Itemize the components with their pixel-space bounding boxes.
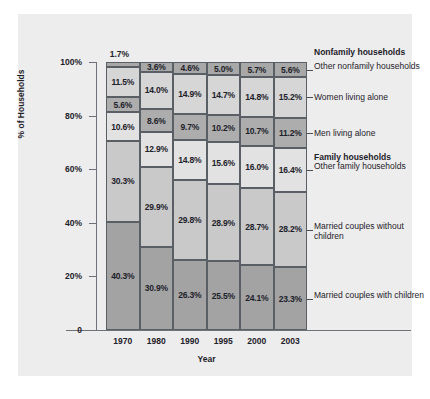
segment-value-label: 30.3% [111, 176, 134, 186]
segment-value-label: 23.3% [279, 294, 302, 304]
y-tick-mark [89, 223, 96, 224]
bar-segment[interactable]: 9.7% [173, 114, 207, 140]
bar-segment[interactable]: 14.9% [173, 74, 207, 114]
bar-segment[interactable]: 15.6% [207, 142, 241, 184]
plot-area: 11.5%5.6%10.6%30.3%40.3%3.6%14.0%8.6%12.… [106, 62, 307, 330]
bar-segment[interactable]: 14.0% [140, 72, 174, 110]
callout-leader-line [307, 70, 313, 71]
segment-value-label: 14.8% [178, 155, 201, 165]
bar-segment[interactable]: 16.4% [274, 148, 308, 192]
bar-segment[interactable]: 11.5% [106, 67, 140, 98]
bar-2003[interactable]: 5.6%15.2%11.2%16.4%28.2%23.3% [274, 62, 308, 330]
bar-segment[interactable]: 12.9% [140, 132, 174, 167]
segment-value-label: 26.3% [178, 290, 201, 300]
segment-value-label: 1.7% [110, 49, 129, 59]
segment-value-label: 25.5% [212, 291, 235, 301]
segment-value-label: 5.6% [113, 100, 132, 110]
segment-value-label: 24.1% [245, 293, 268, 303]
y-tick-label: 60% [46, 164, 82, 174]
bar-segment[interactable]: 14.7% [207, 75, 241, 114]
y-axis-line [96, 62, 97, 330]
bar-segment[interactable]: 10.6% [106, 112, 140, 140]
callout-leader-line [307, 170, 313, 171]
bar-segment[interactable]: 40.3% [106, 222, 140, 330]
bar-segment[interactable]: 15.2% [274, 77, 308, 118]
bar-segment[interactable]: 28.9% [207, 184, 241, 261]
chart-panel: % of Households 100%80%60%40%20%0 11.5%5… [18, 14, 412, 376]
bar-segment[interactable]: 5.7% [240, 62, 274, 77]
bar-2000[interactable]: 5.7%14.8%10.7%16.0%28.7%24.1% [240, 62, 274, 330]
bar-segment[interactable]: 5.6% [274, 62, 308, 77]
callout-leader-line [307, 97, 313, 98]
bar-segment[interactable]: 3.6% [140, 62, 174, 72]
bar-segment[interactable]: 24.1% [240, 265, 274, 330]
segment-value-label: 16.0% [245, 162, 268, 172]
segment-value-label: 10.2% [212, 123, 235, 133]
callout-leader-line [307, 230, 313, 231]
segment-value-label: 28.9% [212, 218, 235, 228]
bar-segment[interactable]: 16.0% [240, 146, 274, 189]
y-tick-mark [89, 62, 96, 63]
y-tick-mark [89, 169, 96, 170]
segment-value-label: 11.2% [279, 128, 302, 138]
callout-leader-line [307, 299, 313, 300]
segment-value-label: 15.6% [212, 158, 235, 168]
bar-segment[interactable]: 29.9% [140, 167, 174, 247]
segment-value-label: 11.5% [111, 77, 134, 87]
callout-item: Men living alone [314, 128, 426, 138]
bar-segment[interactable]: 30.3% [106, 141, 140, 222]
bar-1970[interactable]: 11.5%5.6%10.6%30.3%40.3% [106, 62, 140, 330]
segment-value-label: 8.6% [147, 116, 166, 126]
bar-segment[interactable]: 14.8% [240, 77, 274, 117]
bar-segment[interactable]: 30.9% [140, 247, 174, 330]
callout-leader-line [307, 133, 313, 134]
segment-value-label: 40.3% [111, 271, 134, 281]
y-tick-label: 20% [46, 271, 82, 281]
x-axis-line [66, 330, 411, 331]
segment-value-label: 10.6% [111, 122, 134, 132]
bar-segment[interactable]: 4.6% [173, 62, 207, 74]
bar-1990[interactable]: 4.6%14.9%9.7%14.8%29.8%26.3% [173, 62, 207, 330]
segment-value-label: 29.8% [178, 215, 201, 225]
y-tick-mark [89, 330, 96, 331]
segment-value-label: 5.7% [247, 65, 266, 75]
bar-segment[interactable]: 11.2% [274, 118, 308, 148]
bar-segment[interactable]: 5.0% [207, 62, 241, 75]
bar-segment[interactable]: 23.3% [274, 267, 308, 329]
y-tick-label: 40% [46, 218, 82, 228]
segment-value-label: 14.9% [178, 89, 201, 99]
segment-value-label: 5.6% [281, 65, 300, 75]
segment-value-label: 16.4% [279, 165, 302, 175]
segment-value-label: 9.7% [180, 122, 199, 132]
callout-item: Married couples with children [314, 290, 426, 300]
segment-value-label: 3.6% [147, 62, 166, 72]
bar-segment[interactable]: 5.6% [106, 97, 140, 112]
callout-item: Other nonfamily households [314, 61, 426, 71]
segment-value-label: 4.6% [180, 63, 199, 73]
bar-segment[interactable]: 28.7% [240, 188, 274, 265]
y-tick-label: 80% [46, 111, 82, 121]
callout-group-header: Nonfamily households [314, 47, 426, 57]
segment-value-label: 10.7% [245, 126, 268, 136]
segment-value-label: 14.0% [145, 85, 168, 95]
y-tick-label: 100% [46, 57, 82, 67]
callout-item: Women living alone [314, 92, 426, 102]
bar-1980[interactable]: 3.6%14.0%8.6%12.9%29.9%30.9% [140, 62, 174, 330]
x-axis-title: Year [106, 354, 307, 364]
bar-segment[interactable]: 14.8% [173, 140, 207, 180]
bar-segment[interactable]: 10.7% [240, 117, 274, 146]
bar-segment[interactable]: 8.6% [140, 109, 174, 132]
segment-value-label: 14.7% [212, 90, 235, 100]
y-tick-label: 0 [46, 325, 82, 335]
callout-item: Other family households [314, 161, 426, 171]
bar-segment[interactable]: 25.5% [207, 261, 241, 329]
segment-value-label: 28.2% [279, 224, 302, 234]
y-axis-title: % of Households [16, 44, 26, 164]
segment-value-label: 30.9% [145, 283, 168, 293]
bar-segment[interactable]: 29.8% [173, 180, 207, 260]
bar-segment[interactable]: 10.2% [207, 115, 241, 142]
callout-item: Married couples without children [314, 221, 426, 241]
bar-segment[interactable]: 28.2% [274, 192, 308, 268]
bar-1995[interactable]: 5.0%14.7%10.2%15.6%28.9%25.5% [207, 62, 241, 330]
bar-segment[interactable]: 26.3% [173, 260, 207, 330]
